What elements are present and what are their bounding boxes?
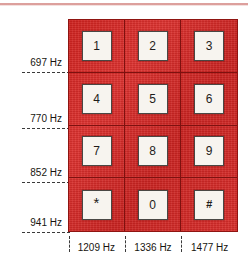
keypad-cell[interactable]: 4 [69, 73, 125, 126]
keypad-cell[interactable]: 9 [181, 126, 237, 179]
keypad-cell[interactable]: 2 [125, 20, 181, 73]
key-hash[interactable]: # [194, 190, 224, 220]
key-1[interactable]: 1 [82, 31, 112, 61]
keypad-cell[interactable]: 8 [125, 126, 181, 179]
dtmf-keypad: 1 2 3 4 5 6 7 8 9 * 0 # [68, 19, 238, 232]
row-frequency-leader-697 [22, 72, 70, 73]
keypad-cell[interactable]: 1 [69, 20, 125, 73]
row-frequency-leader-770 [22, 128, 70, 129]
key-star[interactable]: * [82, 190, 112, 220]
row-frequency-label-941: 941 Hz [0, 217, 62, 228]
column-frequency-label-1209: 1209 Hz [68, 241, 125, 255]
column-frequency-label-1477: 1477 Hz [181, 241, 238, 255]
page-rule-top-secondary [0, 5, 248, 6]
keypad-cell[interactable]: 5 [125, 73, 181, 126]
row-frequency-label-697: 697 Hz [0, 57, 62, 68]
key-9[interactable]: 9 [194, 136, 224, 166]
keypad-cell[interactable]: 7 [69, 126, 125, 179]
key-2[interactable]: 2 [138, 31, 168, 61]
key-0[interactable]: 0 [138, 190, 168, 220]
key-7[interactable]: 7 [82, 136, 112, 166]
keypad-cell[interactable]: # [181, 178, 237, 231]
keypad-cell[interactable]: 6 [181, 73, 237, 126]
row-frequency-leader-941 [22, 232, 70, 233]
key-5[interactable]: 5 [138, 84, 168, 114]
row-frequency-leader-852 [22, 182, 70, 183]
column-frequency-axis: 1209 Hz 1336 Hz 1477 Hz [68, 241, 238, 255]
column-frequency-label-1336: 1336 Hz [125, 241, 182, 255]
keypad-cell[interactable]: * [69, 178, 125, 231]
keypad-cell[interactable]: 3 [181, 20, 237, 73]
key-8[interactable]: 8 [138, 136, 168, 166]
key-3[interactable]: 3 [194, 31, 224, 61]
key-4[interactable]: 4 [82, 84, 112, 114]
key-6[interactable]: 6 [194, 84, 224, 114]
row-frequency-label-770: 770 Hz [0, 113, 62, 124]
keypad-cell[interactable]: 0 [125, 178, 181, 231]
row-frequency-label-852: 852 Hz [0, 167, 62, 178]
